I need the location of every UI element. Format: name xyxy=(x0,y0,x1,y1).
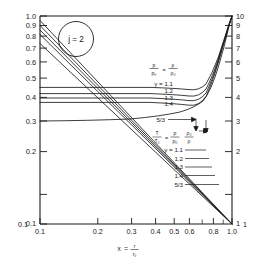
x-tick-label: 0.6 xyxy=(184,227,194,236)
y-left-tick-label: 1.0 xyxy=(26,12,36,21)
y-left-tick-label: 0.2 xyxy=(26,147,36,156)
annotation-upper-gamma-lead: γ = 1.1 xyxy=(154,80,173,87)
curve-p-gamma-1.3 xyxy=(40,16,232,101)
annotation-lower-gamma-value: 1.3 xyxy=(174,163,183,170)
pressure-density-curves xyxy=(40,16,232,121)
curve-p-gamma-1.1 xyxy=(40,16,232,90)
figure-container: 1.0 0.9 0.8 0.7 0.6 0.5 0.4 0.3 0.2 0.1 xyxy=(0,0,260,264)
x-axis-title: x = r r₀ xyxy=(117,243,138,257)
y-axis-left-labels: 1.0 0.9 0.8 0.7 0.6 0.5 0.4 0.3 0.2 0.1 xyxy=(26,12,36,229)
y-left-tick-label: 0.7 xyxy=(26,44,36,53)
annotation-mid-marker-label: 5/3 xyxy=(156,116,165,123)
y-right-tick-label: 8 xyxy=(236,32,240,41)
annotation-lower-gamma-value: 1.4 xyxy=(174,172,183,179)
annotation-mid-marker: 5/3 xyxy=(156,116,196,123)
y-right-tick-label: 2 xyxy=(236,147,240,156)
x-tick-label: 1.0 xyxy=(227,227,237,236)
x-tick-label: 0.2 xyxy=(93,227,103,236)
y-left-tick-label: 0.9 xyxy=(26,21,36,30)
x-tick-label: 0.8 xyxy=(208,227,218,236)
annotation-lower-b-denominator: p₀ xyxy=(173,138,178,144)
x-tick-label: 0.3 xyxy=(127,227,137,236)
curve-p-gamma-5-3 xyxy=(40,16,232,121)
x-axis-title-var: x xyxy=(117,245,121,252)
x-tick-label: 0.4 xyxy=(151,227,161,236)
curve-T-gamma-1.3 xyxy=(40,30,232,224)
y-left-tick-label: 0.4 xyxy=(26,93,36,102)
curve-T-gamma-1.1 xyxy=(40,21,232,225)
y-left-tick-label: 0.3 xyxy=(26,117,36,126)
annotation-upper-gamma-value: 1.4 xyxy=(164,100,173,107)
x-axis-labels: 0.1 0.2 0.3 0.4 0.5 0.6 0.8 1.0 xyxy=(35,227,237,236)
y-left-tick-label: 0.8 xyxy=(26,32,36,41)
geometry-tag-label: j = 2 xyxy=(67,35,84,44)
annotation-upper-rhs-numerator: ρ xyxy=(172,62,175,68)
annotation-lower-a-denominator: T₀ xyxy=(154,138,159,144)
y-right-tick-label: 5 xyxy=(236,74,240,83)
annotation-lower-a-numerator: T xyxy=(155,130,158,136)
y-right-tick-label: 3 xyxy=(236,117,240,126)
annotation-lower-gamma-value: 1.2 xyxy=(174,155,183,162)
plot-frame xyxy=(40,16,232,224)
curve-T-gamma-1.2 xyxy=(40,26,232,225)
y-right-tick-label: 4 xyxy=(236,93,240,102)
convergence-arrows xyxy=(194,119,208,134)
y-right-tick-label: 10 xyxy=(236,12,244,21)
temperature-curves xyxy=(40,21,232,225)
x-axis-corner-left-label: 0.1 xyxy=(18,220,28,229)
annotation-lower-b-numerator: p xyxy=(174,130,177,136)
y-left-tick-label: 0.6 xyxy=(26,58,36,67)
annotation-upper-lhs-numerator: p xyxy=(153,62,156,68)
x-tick-label: 0.5 xyxy=(169,227,179,236)
scientific-chart: 1.0 0.9 0.8 0.7 0.6 0.5 0.4 0.3 0.2 0.1 xyxy=(0,0,260,264)
annotation-upper-lhs-denominator: p₀ xyxy=(152,70,157,76)
x-axis-corner-right-label: 1 xyxy=(243,220,247,229)
annotation-upper-equals: = xyxy=(162,67,165,73)
annotation-pressure-density: p p₀ = ρ ρ₀ γ = 1.1 1.2 1.3 1.4 xyxy=(150,62,178,108)
annotation-lower-c-numerator: ρ₀ xyxy=(187,130,192,136)
y-left-tick-label: 0.5 xyxy=(26,74,36,83)
annotation-lower-gamma-value: 5/3 xyxy=(174,181,183,188)
y-right-tick-label: 6 xyxy=(236,58,240,67)
y-axis-right-labels: 10 9 8 7 6 5 4 3 2 1 xyxy=(236,12,244,229)
x-axis-ticks xyxy=(40,218,232,224)
annotation-lower-equals: = xyxy=(165,135,168,141)
geometry-tag: j = 2 xyxy=(59,22,94,57)
annotation-lower-c-denominator: ρ xyxy=(188,138,191,144)
y-axis-right-ticks xyxy=(225,16,232,194)
annotation-lower-gamma-lead: γ = 1.1 xyxy=(164,146,183,153)
x-tick-label: 0.1 xyxy=(35,227,45,236)
x-axis-title-equals: = xyxy=(124,245,128,252)
annotation-upper-rhs-denominator: ρ₀ xyxy=(171,70,176,76)
curve-p-gamma-1.2 xyxy=(40,16,232,96)
x-axis-title-denominator: r₀ xyxy=(133,251,137,257)
y-right-tick-label: 9 xyxy=(236,21,240,30)
x-axis-title-numerator: r xyxy=(134,243,136,249)
y-right-tick-label: 7 xyxy=(236,44,240,53)
